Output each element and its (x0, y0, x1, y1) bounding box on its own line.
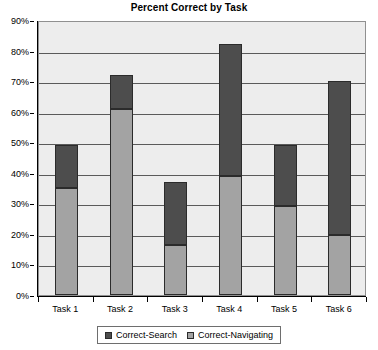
x-tick-mark (93, 297, 94, 302)
y-tick-mark (30, 52, 34, 53)
y-tick-mark (30, 235, 34, 236)
bar-segment-search[interactable] (164, 182, 187, 245)
chart-legend: Correct-SearchCorrect-Navigating (97, 326, 281, 344)
bar-segment-navigating[interactable] (219, 176, 242, 295)
y-tick-label: 60% (11, 108, 29, 117)
y-tick-mark (30, 143, 34, 144)
bar-segment-navigating[interactable] (164, 245, 187, 295)
bar-segment-search[interactable] (55, 145, 78, 188)
gridline (39, 144, 365, 145)
legend-swatch-icon (105, 332, 112, 339)
bar-group[interactable] (219, 20, 242, 295)
x-tick-label: Task 3 (147, 304, 203, 315)
bar-group[interactable] (274, 20, 297, 295)
y-tick-label: 30% (11, 200, 29, 209)
y-tick-label: 10% (11, 261, 29, 270)
x-tick-label: Task 5 (256, 304, 312, 315)
gridline (39, 114, 365, 115)
chart-title: Percent Correct by Task (0, 2, 378, 14)
bar-group[interactable] (328, 20, 351, 295)
gridline (39, 83, 365, 84)
bar-segment-search[interactable] (274, 145, 297, 206)
x-tick-mark (202, 297, 203, 302)
bar-segment-navigating[interactable] (110, 109, 133, 295)
y-tick-mark (30, 82, 34, 83)
chart-container: Percent Correct by Task 0%10%20%30%40%50… (0, 0, 378, 350)
x-tick-mark (257, 297, 258, 302)
y-tick-label: 20% (11, 230, 29, 239)
y-tick-label: 80% (11, 47, 29, 56)
x-tick-label: Task 1 (37, 304, 93, 315)
x-tick-mark (147, 297, 148, 302)
y-tick-mark (30, 174, 34, 175)
x-tick-mark (38, 297, 39, 302)
x-tick-label: Task 6 (311, 304, 367, 315)
y-tick-label: 90% (11, 17, 29, 26)
y-tick-label: 0% (16, 292, 29, 301)
x-tick-mark (366, 297, 367, 302)
bar-group[interactable] (55, 20, 78, 295)
bar-segment-search[interactable] (110, 75, 133, 109)
x-tick-label: Task 2 (92, 304, 148, 315)
y-tick-label: 50% (11, 139, 29, 148)
gridline (39, 175, 365, 176)
y-tick-mark (30, 21, 34, 22)
y-tick-mark (30, 265, 34, 266)
y-tick-label: 70% (11, 78, 29, 87)
bar-group[interactable] (164, 20, 187, 295)
gridline (39, 266, 365, 267)
y-axis: 0%10%20%30%40%50%60%70%80%90% (0, 21, 34, 296)
bar-segment-navigating[interactable] (274, 206, 297, 295)
bar-group[interactable] (110, 20, 133, 295)
legend-item[interactable]: Correct-Search (105, 330, 177, 340)
legend-swatch-icon (187, 332, 194, 339)
y-tick-label: 40% (11, 169, 29, 178)
y-tick-mark (30, 296, 34, 297)
x-tick-label: Task 4 (201, 304, 257, 315)
legend-item[interactable]: Correct-Navigating (187, 330, 273, 340)
bar-segment-search[interactable] (219, 44, 242, 175)
gridline (39, 53, 365, 54)
legend-label: Correct-Search (116, 330, 177, 340)
gridline (39, 205, 365, 206)
bar-segment-navigating[interactable] (55, 188, 78, 295)
bar-segment-navigating[interactable] (328, 235, 351, 295)
plot-area (38, 21, 366, 296)
gridline (39, 236, 365, 237)
y-tick-mark (30, 204, 34, 205)
y-tick-mark (30, 113, 34, 114)
legend-label: Correct-Navigating (198, 330, 273, 340)
bar-segment-search[interactable] (328, 81, 351, 235)
x-tick-mark (311, 297, 312, 302)
